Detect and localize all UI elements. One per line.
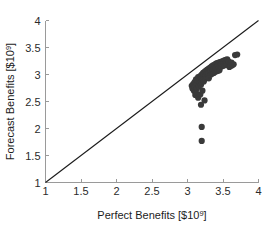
x-tick-label: 4 <box>255 185 261 197</box>
chart-canvas: 11.522.533.5411.522.533.54Perfect Benefi… <box>0 0 274 227</box>
y-tick-label: 3.5 <box>25 42 40 54</box>
x-tick-label: 1 <box>42 185 48 197</box>
y-tick-label: 2 <box>34 123 40 135</box>
y-tick-label: 2.5 <box>25 96 40 108</box>
x-tick-label: 1.5 <box>73 185 88 197</box>
y-tick-label: 4 <box>34 15 40 27</box>
data-point <box>199 124 205 130</box>
data-point <box>199 138 205 144</box>
data-point <box>198 102 204 108</box>
data-point <box>199 88 205 94</box>
y-tick-label: 1 <box>34 177 40 189</box>
scatter-series <box>189 51 241 144</box>
x-axis-title: Perfect Benefits [$109] <box>97 209 206 222</box>
x-tick-label: 2 <box>113 185 119 197</box>
scatter-chart-figure: 11.522.533.5411.522.533.54Perfect Benefi… <box>0 0 274 227</box>
x-tick-label: 2.5 <box>144 185 159 197</box>
data-point <box>234 51 240 57</box>
x-tick-label: 3.5 <box>215 185 230 197</box>
data-point <box>231 61 237 67</box>
y-axis-title: Forecast Benefits [$109] <box>4 43 17 160</box>
x-tick-label: 3 <box>184 185 190 197</box>
y-tick-label: 1.5 <box>25 150 40 162</box>
one-to-one-line <box>46 21 259 183</box>
y-tick-label: 3 <box>34 69 40 81</box>
